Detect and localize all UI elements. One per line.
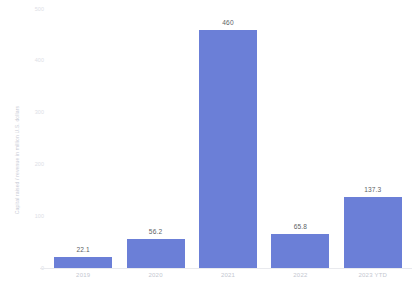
plot-area: 22.156.246065.8137.3 [47, 9, 409, 268]
bar-group: 137.3 [337, 9, 409, 268]
bar[interactable] [344, 197, 402, 268]
y-axis-tick-label: 200 [18, 161, 44, 168]
x-axis-tick-label: 2021 [221, 272, 235, 278]
x-axis-tick-label: 2019 [76, 272, 90, 278]
bar-group: 460 [192, 9, 264, 268]
x-axis-tick-label: 2020 [149, 272, 163, 278]
bar-value-label: 56.2 [149, 228, 162, 235]
bar-value-label: 137.3 [364, 186, 381, 193]
bar[interactable] [127, 239, 185, 268]
y-axis-tick-label: 400 [18, 57, 44, 64]
x-axis-tick-label: 2023 YTD [359, 272, 388, 278]
bar[interactable] [54, 257, 112, 268]
bar-value-label: 65.8 [294, 223, 307, 230]
bar-group: 65.8 [264, 9, 336, 268]
bar-chart: Capital raised / revenue in million U.S.… [0, 0, 415, 296]
x-axis-tick-labels: 20192020202120222023 YTD [47, 272, 409, 286]
bar-group: 22.1 [47, 9, 119, 268]
bar-value-label: 460 [222, 19, 233, 26]
bar[interactable] [199, 30, 257, 268]
bar-value-label: 22.1 [76, 246, 89, 253]
bar-group: 56.2 [119, 9, 191, 268]
bar[interactable] [271, 234, 329, 268]
x-axis-line [40, 268, 412, 269]
x-axis-tick-label: 2022 [293, 272, 307, 278]
y-axis-tick-label: 500 [18, 6, 44, 13]
y-axis-tick-label: 300 [18, 109, 44, 116]
y-axis-tick-labels: 0100200300400500 [18, 0, 44, 296]
y-axis-tick-label: 100 [18, 213, 44, 220]
